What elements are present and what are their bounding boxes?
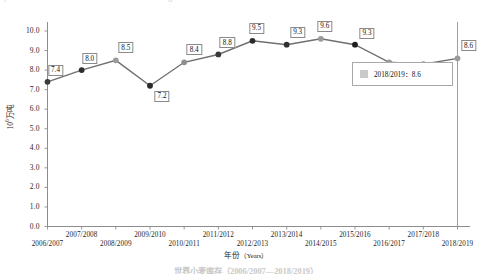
y-tick-label: 1.0 xyxy=(14,203,40,211)
x-tick-label: 2009/2010 xyxy=(134,231,166,239)
x-tick-label: 2007/2008 xyxy=(66,231,98,239)
data-value-label: 8.0 xyxy=(82,53,97,64)
y-tick-label: 10.0 xyxy=(14,27,40,35)
x-tick-label: 2013/2014 xyxy=(271,231,303,239)
data-point-marker xyxy=(147,83,153,89)
data-point-marker xyxy=(215,52,221,58)
data-point-marker xyxy=(284,42,290,48)
y-tick-label: 8.0 xyxy=(14,66,40,74)
x-axis-title-en: （Years） xyxy=(240,252,269,259)
data-point-marker xyxy=(79,67,85,73)
data-value-label: 9.3 xyxy=(359,28,374,39)
data-point-marker xyxy=(318,36,324,42)
y-axis-title-prefix: 10 xyxy=(6,122,15,130)
y-axis-title-suffix: 万吨 xyxy=(6,105,15,119)
data-point-marker xyxy=(250,38,256,44)
x-tick-label: 2018/2019 xyxy=(442,240,474,248)
data-point-marker xyxy=(352,42,358,48)
x-tick-label: 2011/2012 xyxy=(203,231,234,239)
x-tick-label: 2010/2011 xyxy=(168,240,199,248)
chart-figure: | g 10.09.08.07.06.05.04.03.02.01.00.0 2… xyxy=(0,0,492,274)
legend-swatch-icon xyxy=(360,70,368,78)
x-tick-label: 2015/2016 xyxy=(339,231,371,239)
figure-caption-strip: 世界小麦库存（2006/2007—2018/2019） xyxy=(0,264,492,274)
y-tick-label: 3.0 xyxy=(14,164,40,172)
data-value-label: 9.3 xyxy=(290,27,305,38)
y-tick-label: 4.0 xyxy=(14,144,40,152)
data-value-label: 9.5 xyxy=(249,23,264,34)
y-axis-title: 106万吨 xyxy=(4,90,15,146)
x-axis-title: 年份（Years） xyxy=(0,249,492,260)
x-axis-title-cn: 年份 xyxy=(224,251,240,260)
figure-caption: 世界小麦库存（2006/2007—2018/2019） xyxy=(0,264,492,274)
x-tick-label: 2014/2015 xyxy=(305,240,337,248)
x-tick-label: 2006/2007 xyxy=(32,240,64,248)
y-tick-label: 6.0 xyxy=(14,105,40,113)
x-tick-label: 2017/2018 xyxy=(408,231,440,239)
y-tick-label: 2.0 xyxy=(14,183,40,191)
data-value-label: 9.6 xyxy=(317,21,332,32)
data-value-label: 8.6 xyxy=(461,40,476,51)
data-point-marker xyxy=(113,57,119,63)
data-value-label: 7.2 xyxy=(154,91,169,102)
legend-entry-label: 2018/2019：8.6 xyxy=(374,69,421,79)
x-tick-label: 2008/2009 xyxy=(100,240,132,248)
y-tick-label: 9.0 xyxy=(14,47,40,55)
y-tick-label: 0.0 xyxy=(14,223,40,231)
data-value-label: 7.4 xyxy=(48,65,63,76)
x-tick-label: 2016/2017 xyxy=(373,240,405,248)
data-value-label: 8.5 xyxy=(118,42,133,53)
legend: 2018/2019：8.6 xyxy=(352,62,453,86)
data-value-label: 8.8 xyxy=(220,37,235,48)
data-point-marker xyxy=(455,55,461,61)
y-tick-label: 5.0 xyxy=(14,125,40,133)
data-value-label: 8.4 xyxy=(186,44,201,55)
data-point-marker xyxy=(181,59,187,65)
data-point-marker xyxy=(45,79,51,85)
y-tick-label: 7.0 xyxy=(14,86,40,94)
x-tick-label: 2012/2013 xyxy=(237,240,269,248)
y-axis-title-exponent: 6 xyxy=(4,119,10,122)
